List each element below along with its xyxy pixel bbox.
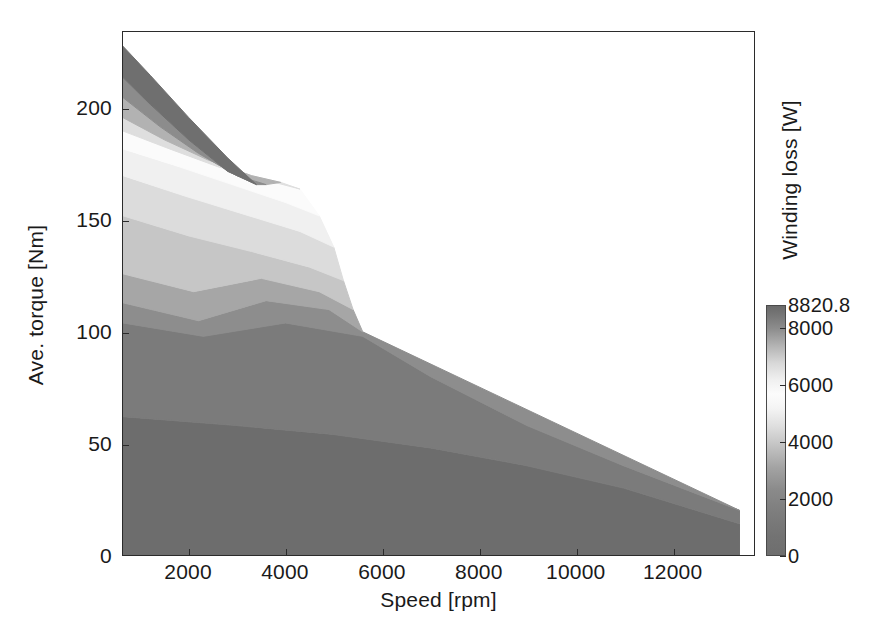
x-tick-label: 2000: [164, 560, 212, 584]
colorbar-tick-mark: [780, 442, 786, 443]
colorbar-tick-label: 0: [788, 545, 799, 568]
y-tick-label: 200: [76, 96, 112, 120]
y-tick-label: 100: [76, 320, 112, 344]
colorbar-tick-mark: [780, 556, 786, 557]
x-tick-label: 10000: [546, 560, 605, 584]
contour-bands: [123, 32, 754, 555]
x-tick-mark: [383, 549, 384, 555]
plot-area[interactable]: [122, 31, 755, 556]
y-tick-mark: [123, 445, 129, 446]
x-tick-label: 12000: [643, 560, 702, 584]
x-axis-label: Speed [rpm]: [122, 588, 755, 612]
x-tick-label: 4000: [261, 560, 309, 584]
colorbar-tick-mark: [780, 499, 786, 500]
y-axis-label: Ave. torque [Nm]: [24, 165, 48, 445]
colorbar-tick-label: 6000: [788, 374, 833, 397]
x-tick-label: 8000: [455, 560, 503, 584]
colorbar[interactable]: 8820.880006000400020000: [766, 305, 786, 556]
colorbar-label: Winding loss [W]: [778, 30, 802, 330]
colorbar-gradient: [766, 305, 786, 556]
x-tick-mark: [577, 549, 578, 555]
y-tick-mark: [123, 109, 129, 110]
x-tick-mark: [286, 549, 287, 555]
contour-figure: 050100150200 Speed [rpm] Ave. torque [Nm…: [0, 0, 880, 633]
y-tick-mark: [123, 221, 129, 222]
x-tick-label: 6000: [358, 560, 406, 584]
x-tick-mark: [480, 549, 481, 555]
y-tick-label: 0: [100, 544, 112, 568]
y-tick-label: 50: [88, 432, 112, 456]
y-tick-mark: [123, 333, 129, 334]
x-tick-mark: [674, 549, 675, 555]
colorbar-tick-mark: [780, 385, 786, 386]
y-tick-label: 150: [76, 208, 112, 232]
x-tick-mark: [189, 549, 190, 555]
colorbar-tick-label: 4000: [788, 431, 833, 454]
y-axis-ticks: 050100150200: [0, 0, 112, 633]
colorbar-tick-label: 2000: [788, 488, 833, 511]
